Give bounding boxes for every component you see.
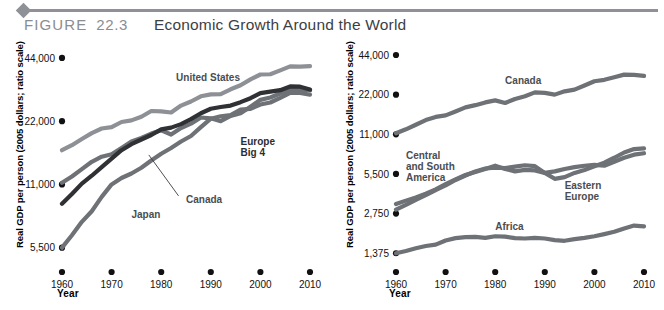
- series-label: Canada: [186, 194, 223, 205]
- y-tick-dot: [393, 52, 399, 58]
- chart-left: 5,50011,00022,00044,00019601970198019902…: [0, 34, 330, 310]
- figure-number: 22.3: [96, 16, 128, 33]
- x-tick-label: 1990: [534, 279, 557, 290]
- figure-caption: FIGURE22.3Economic Growth Around the Wor…: [24, 16, 406, 34]
- x-tick-label: 2010: [633, 279, 656, 290]
- series-label: Canada: [505, 75, 542, 86]
- series-label: United States: [176, 72, 240, 83]
- x-tick-label: 1970: [100, 279, 123, 290]
- x-tick-dot: [257, 269, 263, 275]
- x-tick-label: 1970: [434, 279, 457, 290]
- y-tick-dot: [59, 118, 65, 124]
- y-axis-title-left: Real GDP per person (2005 dollars; ratio…: [14, 41, 25, 248]
- chart-right: 1,3752,7505,50011,00022,00044,0001960197…: [330, 34, 664, 310]
- chart-panel-left: 5,50011,00022,00044,00019601970198019902…: [0, 34, 330, 310]
- x-axis-title-right: Year: [389, 288, 411, 299]
- header-rule: [26, 9, 658, 12]
- x-tick-dot: [307, 269, 313, 275]
- y-tick-label: 5,500: [30, 242, 55, 253]
- y-tick-label: 22,000: [358, 89, 389, 100]
- x-axis-title-left: Year: [57, 288, 79, 299]
- y-tick-label: 44,000: [24, 53, 55, 64]
- y-tick-label: 11,000: [359, 129, 389, 140]
- y-tick-label: 22,000: [24, 116, 55, 127]
- y-axis-title-right: Real GDP per person (2005 dollars; ratio…: [344, 41, 355, 248]
- series-label: Japan: [131, 209, 160, 220]
- x-tick-label: 1990: [200, 279, 223, 290]
- series-label: EasternEurope: [565, 180, 602, 202]
- x-tick-dot: [208, 269, 214, 275]
- y-tick-label: 2,750: [364, 208, 389, 219]
- x-tick-dot: [158, 269, 164, 275]
- x-tick-dot: [641, 269, 647, 275]
- series-label: EuropeBig 4: [241, 136, 276, 158]
- series-label: Africa: [495, 221, 524, 232]
- x-tick-label: 1980: [150, 279, 173, 290]
- y-tick-label: 11,000: [25, 179, 55, 190]
- y-tick-dot: [393, 171, 399, 177]
- x-tick-dot: [542, 269, 548, 275]
- y-tick-label: 5,500: [364, 169, 389, 180]
- y-tick-label: 44,000: [358, 50, 389, 61]
- x-tick-dot: [492, 269, 498, 275]
- y-tick-dot: [59, 55, 65, 61]
- x-tick-label: 2000: [249, 279, 272, 290]
- y-tick-label: 1,375: [364, 248, 389, 259]
- figure-title: Economic Growth Around the World: [154, 16, 407, 33]
- figure-container: FIGURE22.3Economic Growth Around the Wor…: [0, 0, 664, 310]
- x-tick-dot: [443, 269, 449, 275]
- x-tick-dot: [59, 269, 65, 275]
- leader-line: [149, 155, 179, 196]
- x-tick-dot: [393, 269, 399, 275]
- figure-label: FIGURE: [24, 16, 87, 33]
- y-tick-dot: [393, 92, 399, 98]
- chart-panel-right: 1,3752,7505,50011,00022,00044,0001960197…: [330, 34, 664, 310]
- x-tick-label: 2010: [299, 279, 322, 290]
- x-tick-label: 1980: [484, 279, 507, 290]
- x-tick-dot: [591, 269, 597, 275]
- figure-header: FIGURE22.3Economic Growth Around the Wor…: [0, 0, 664, 34]
- series-label: Centraland SouthAmerica: [406, 150, 455, 183]
- x-tick-dot: [109, 269, 115, 275]
- x-tick-label: 2000: [583, 279, 606, 290]
